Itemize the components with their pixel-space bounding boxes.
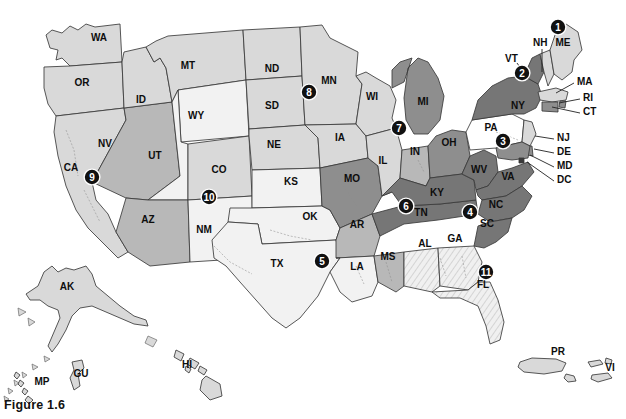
state-label-KS: KS — [284, 176, 298, 187]
state-label-OK: OK — [303, 211, 319, 222]
state-label-PR: PR — [551, 346, 566, 357]
state-label-AK: AK — [60, 281, 75, 292]
state-label-VI: VI — [605, 362, 615, 373]
state-label-FL: FL — [477, 279, 489, 290]
map-marker-11[interactable]: 11 — [477, 263, 494, 280]
state-label-SC: SC — [480, 218, 494, 229]
state-OR[interactable] — [44, 62, 124, 116]
state-label-WV: WV — [471, 164, 487, 175]
state-label-ME: ME — [556, 37, 571, 48]
marker-number: 9 — [89, 172, 95, 183]
state-label-MI: MI — [417, 96, 428, 107]
state-label-NV: NV — [98, 138, 112, 149]
leader-line-DE — [534, 149, 554, 153]
state-label-CO: CO — [212, 164, 227, 175]
leader-line-NJ — [535, 136, 554, 139]
state-label-IN: IN — [410, 146, 420, 157]
figure-container: WAORIDMTWYNDSDNEMNWIIAMIILINOHNVCAUTCOAZ… — [0, 0, 626, 419]
state-label-AL: AL — [418, 238, 431, 249]
state-WA[interactable] — [46, 24, 122, 66]
marker-number: 2 — [519, 68, 525, 79]
state-AL[interactable] — [404, 248, 440, 292]
marker-number: 4 — [467, 207, 473, 218]
map-marker-6[interactable]: 6 — [397, 197, 414, 214]
state-label-IL: IL — [379, 155, 388, 166]
marker-number: 5 — [319, 256, 325, 267]
state-label-WY: WY — [188, 110, 204, 121]
state-NY[interactable] — [472, 76, 542, 120]
state-label-OH: OH — [442, 137, 457, 148]
state-KS[interactable] — [252, 168, 322, 208]
map-marker-4[interactable]: 4 — [461, 203, 478, 220]
state-label-TX: TX — [271, 258, 284, 269]
state-PR[interactable] — [518, 358, 576, 382]
state-NE[interactable] — [249, 125, 320, 170]
callout-label-DE: DE — [557, 146, 571, 157]
state-label-AZ: AZ — [141, 214, 154, 225]
map-marker-3[interactable]: 3 — [494, 132, 511, 149]
ak-aleutians — [4, 308, 50, 402]
state-label-SD: SD — [265, 100, 279, 111]
state-label-LA: LA — [350, 261, 363, 272]
callout-label-VT: VT — [505, 53, 518, 64]
state-label-NY: NY — [511, 100, 525, 111]
state-label-HI: HI — [182, 359, 192, 370]
state-GA[interactable] — [438, 246, 482, 290]
state-NJ[interactable] — [522, 120, 536, 146]
state-label-WI: WI — [366, 91, 378, 102]
state-AZ[interactable] — [116, 198, 190, 266]
state-label-MN: MN — [321, 75, 337, 86]
state-label-UT: UT — [148, 150, 161, 161]
state-MA[interactable] — [538, 88, 568, 102]
state-label-NE: NE — [267, 139, 281, 150]
state-label-AR: AR — [350, 219, 365, 230]
state-label-PA: PA — [484, 122, 497, 133]
map-marker-5[interactable]: 5 — [313, 252, 330, 269]
marker-number: 8 — [306, 87, 312, 98]
map-marker-7[interactable]: 7 — [390, 119, 407, 136]
callout-label-NH: NH — [533, 37, 547, 48]
state-HI[interactable] — [174, 350, 222, 400]
state-CT[interactable] — [542, 102, 558, 112]
state-label-MO: MO — [344, 173, 360, 184]
marker-number: 1 — [555, 22, 561, 33]
map-marker-10[interactable]: 10 — [200, 188, 217, 205]
state-label-GA: GA — [448, 233, 463, 244]
state-label-VA: VA — [501, 171, 514, 182]
map-marker-8[interactable]: 8 — [300, 83, 317, 100]
state-label-MT: MT — [181, 60, 195, 71]
callout-label-CT: CT — [583, 106, 596, 117]
state-label-NC: NC — [489, 199, 503, 210]
state-label-ID: ID — [136, 94, 146, 105]
state-label-NM: NM — [196, 224, 212, 235]
marker-number: 7 — [396, 123, 402, 134]
state-label-WA: WA — [91, 32, 107, 43]
callout-label-RI: RI — [583, 92, 593, 103]
us-map: WAORIDMTWYNDSDNEMNWIIAMIILINOHNVCAUTCOAZ… — [0, 0, 626, 419]
state-TN[interactable] — [372, 200, 478, 236]
state-label-CA: CA — [64, 162, 78, 173]
map-marker-1[interactable]: 1 — [549, 18, 566, 35]
state-label-MS: MS — [381, 251, 396, 262]
callout-label-MA: MA — [577, 76, 593, 87]
marker-number: 10 — [203, 192, 215, 203]
figure-caption: Figure 1.6 — [4, 398, 65, 412]
state-label-IA: IA — [335, 132, 345, 143]
state-label-OR: OR — [75, 77, 91, 88]
hi-extra — [145, 336, 157, 347]
marker-number: 11 — [481, 267, 492, 278]
callout-label-MD: MD — [557, 160, 573, 171]
state-label-ND: ND — [265, 63, 279, 74]
state-label-TN: TN — [414, 207, 427, 218]
marker-number: 3 — [500, 136, 506, 147]
state-DC[interactable] — [519, 158, 524, 163]
callout-label-DC: DC — [557, 174, 571, 185]
state-label-GU: GU — [74, 368, 89, 379]
state-WI[interactable] — [356, 72, 396, 136]
map-marker-9[interactable]: 9 — [83, 168, 100, 185]
state-FL[interactable] — [432, 282, 504, 344]
state-label-MP: MP — [35, 376, 50, 387]
callout-label-NJ: NJ — [557, 132, 570, 143]
map-marker-2[interactable]: 2 — [513, 64, 530, 81]
state-AK[interactable] — [26, 266, 148, 352]
